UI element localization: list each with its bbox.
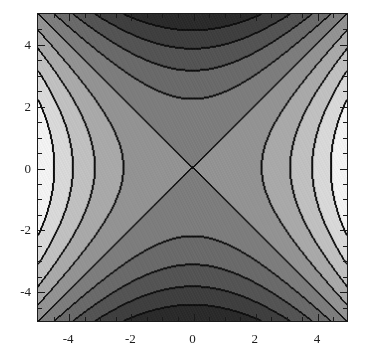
y-tick-major-right — [340, 107, 347, 108]
y-axis-tick-label: 4 — [25, 37, 32, 50]
y-tick-minor-right — [343, 308, 347, 309]
x-tick-minor — [178, 317, 179, 321]
y-tick-minor-right — [343, 122, 347, 123]
y-tick-minor-right — [343, 153, 347, 154]
y-tick-minor — [38, 199, 42, 200]
y-tick-minor-right — [343, 60, 347, 61]
x-tick-minor — [85, 317, 86, 321]
x-tick-minor — [240, 317, 241, 321]
x-tick-major — [194, 314, 195, 321]
x-tick-minor — [147, 317, 148, 321]
y-tick-minor-right — [343, 215, 347, 216]
x-tick-minor — [54, 317, 55, 321]
x-tick-minor — [271, 317, 272, 321]
plot-frame — [37, 13, 348, 322]
x-tick-major-top — [69, 14, 70, 21]
x-tick-major-top — [256, 14, 257, 21]
y-tick-major — [38, 230, 45, 231]
y-tick-minor-right — [343, 199, 347, 200]
contour-plot-figure: -4-2024 -4-2024 — [0, 0, 369, 356]
x-axis-tick-label: 0 — [189, 332, 196, 345]
x-axis-tick-label: -2 — [125, 332, 136, 345]
y-tick-minor-right — [343, 138, 347, 139]
y-tick-minor-right — [343, 76, 347, 77]
x-axis-tick-label: 2 — [251, 332, 258, 345]
y-tick-major-right — [340, 230, 347, 231]
y-tick-minor-right — [343, 277, 347, 278]
x-tick-major — [131, 314, 132, 321]
y-tick-minor — [38, 60, 42, 61]
x-tick-minor-top — [209, 14, 210, 18]
y-tick-major-right — [340, 169, 347, 170]
y-tick-minor-right — [343, 246, 347, 247]
x-tick-minor — [162, 317, 163, 321]
x-tick-minor — [225, 317, 226, 321]
x-tick-minor — [209, 317, 210, 321]
x-tick-minor — [333, 317, 334, 321]
y-tick-minor — [38, 91, 42, 92]
y-tick-minor — [38, 138, 42, 139]
x-tick-minor — [287, 317, 288, 321]
y-tick-minor — [38, 122, 42, 123]
x-tick-minor-top — [302, 14, 303, 18]
contour-field-canvas — [38, 14, 347, 321]
y-axis-tick-label: 2 — [25, 99, 32, 112]
x-tick-minor-top — [240, 14, 241, 18]
x-tick-major-top — [131, 14, 132, 21]
x-tick-minor-top — [147, 14, 148, 18]
y-tick-minor — [38, 261, 42, 262]
x-tick-minor — [302, 317, 303, 321]
y-axis-tick-label: 0 — [25, 161, 32, 174]
y-tick-minor-right — [343, 261, 347, 262]
x-tick-minor-top — [162, 14, 163, 18]
y-tick-minor — [38, 277, 42, 278]
x-tick-minor-top — [271, 14, 272, 18]
y-tick-major — [38, 169, 45, 170]
y-tick-major — [38, 107, 45, 108]
y-axis-tick-label: -2 — [20, 223, 31, 236]
x-tick-major — [69, 314, 70, 321]
x-tick-minor-top — [54, 14, 55, 18]
x-axis-tick-label: 4 — [314, 332, 321, 345]
x-axis-tick-label: -4 — [63, 332, 74, 345]
y-tick-major-right — [340, 292, 347, 293]
y-tick-minor-right — [343, 29, 347, 30]
x-tick-minor-top — [100, 14, 101, 18]
x-tick-minor-top — [116, 14, 117, 18]
y-tick-minor — [38, 246, 42, 247]
x-tick-minor-top — [287, 14, 288, 18]
x-tick-major — [256, 314, 257, 321]
x-tick-minor-top — [85, 14, 86, 18]
y-tick-minor-right — [343, 91, 347, 92]
x-tick-major-top — [194, 14, 195, 21]
y-axis-tick-label: -4 — [20, 285, 31, 298]
x-tick-minor-top — [178, 14, 179, 18]
x-tick-major-top — [318, 14, 319, 21]
y-tick-minor — [38, 29, 42, 30]
y-tick-minor — [38, 184, 42, 185]
y-tick-major — [38, 292, 45, 293]
y-tick-minor — [38, 153, 42, 154]
x-tick-minor — [116, 317, 117, 321]
y-tick-minor-right — [343, 184, 347, 185]
x-tick-minor-top — [225, 14, 226, 18]
y-tick-major — [38, 45, 45, 46]
x-tick-minor — [100, 317, 101, 321]
y-tick-major-right — [340, 45, 347, 46]
y-tick-minor — [38, 76, 42, 77]
x-tick-major — [318, 314, 319, 321]
y-tick-minor — [38, 308, 42, 309]
x-tick-minor-top — [333, 14, 334, 18]
y-tick-minor — [38, 215, 42, 216]
